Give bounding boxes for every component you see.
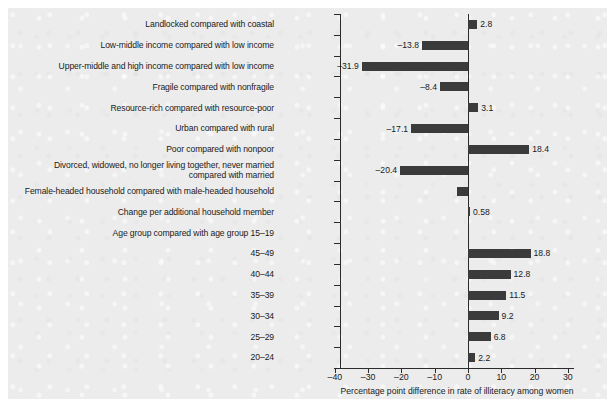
y-axis-tick [334,285,340,286]
y-axis-tick [334,139,340,140]
bar-value-label: –8.4 [0,83,437,92]
category-label: 25–29 [251,332,274,342]
bar-value-label: –31.9 [0,62,359,71]
bar [411,124,468,133]
category-label: Age group compared with age group 15–19 [113,228,274,238]
category-label: Female-headed household compared with ma… [25,186,274,196]
y-axis-tick [334,97,340,98]
category-label: 20–24 [251,352,274,362]
bar-value-label: 18.8 [534,249,551,258]
bar [468,311,499,320]
y-axis-tick [334,264,340,265]
bar-value-label: –20.4 [0,166,397,175]
bar [440,82,468,91]
y-axis-tick [334,14,340,15]
category-label: 30–34 [251,311,274,321]
bar [468,291,506,300]
y-axis-tick [334,201,340,202]
category-label: Poor compared with nonpoor [166,144,274,154]
bar [468,332,491,341]
bar-value-label: 11.5 [509,291,525,300]
bar [422,41,468,50]
bar-value-label: 2.8 [480,20,492,29]
x-axis-tick-label: –40 [320,372,350,382]
category-label: 35–39 [251,290,274,300]
bar-value-label: 0.58 [473,208,490,217]
bar-value-label: 6.8 [494,333,506,342]
chart-figure: Landlocked compared with coastalLow-midd… [0,0,615,411]
y-axis-tick [334,76,340,77]
category-label: 40–44 [251,269,274,279]
category-label: 45–49 [251,248,274,258]
bar [362,62,468,71]
bar [457,187,468,196]
y-axis-tick [334,118,340,119]
bar-value-label: 3.1 [481,104,493,113]
x-axis-tick-label: –10 [420,372,450,382]
x-axis-title: Percentage point difference in rate of i… [340,386,574,396]
bar-value-label: –13.8 [0,41,419,50]
bar-value-label: –17.1 [0,125,408,134]
x-axis-tick-label: 20 [520,372,550,382]
x-axis-tick-label: 0 [453,372,483,382]
bar [468,207,470,216]
y-axis-tick [334,56,340,57]
category-label: Resource-rich compared with resource-poo… [110,103,274,113]
bar [468,249,531,258]
x-axis-tick-label: –20 [386,372,416,382]
x-axis-tick-label: 30 [553,372,583,382]
bar [468,20,477,29]
x-axis-spine [340,368,574,369]
bar-value-label: 2.2 [478,354,490,363]
bar [468,270,511,279]
bar [468,145,529,154]
y-axis-tick [334,306,340,307]
chart-plot-area: Landlocked compared with coastalLow-midd… [0,0,615,411]
y-axis-tick [334,347,340,348]
bar [400,166,468,175]
category-label: Change per additional household member [118,207,274,217]
y-axis-tick [334,326,340,327]
bar-value-label: 9.2 [502,312,514,321]
y-axis-tick [334,181,340,182]
x-axis-tick-label: 10 [486,372,516,382]
y-axis-tick [334,35,340,36]
y-axis-tick [334,222,340,223]
bar [468,353,475,362]
x-axis-tick-label: –30 [353,372,383,382]
bar-value-label: 12.8 [514,270,531,279]
y-axis-tick [334,160,340,161]
bar-value-label: 18.4 [532,145,549,154]
y-axis-tick [334,243,340,244]
category-label: Landlocked compared with coastal [145,19,274,29]
bar [468,103,478,112]
